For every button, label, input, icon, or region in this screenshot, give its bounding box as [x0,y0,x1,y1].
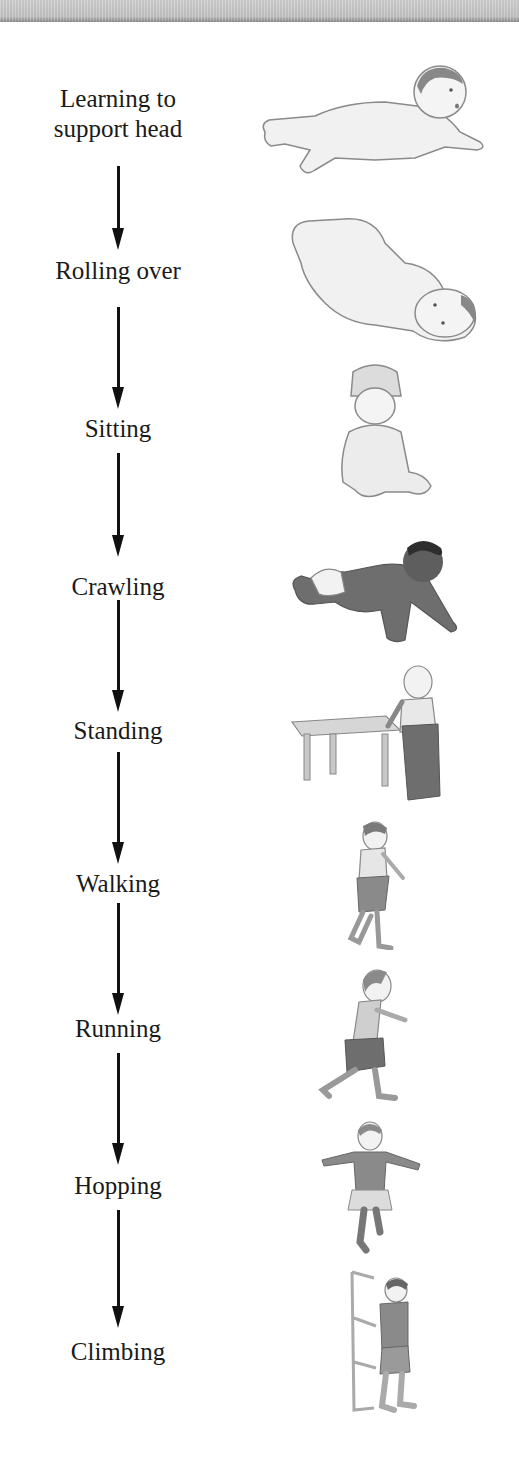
stage-label-hopping: Hopping [0,1171,236,1201]
stage-label-walking: Walking [0,869,236,899]
down-arrow-icon [112,307,125,409]
label-line: Learning to [0,84,236,114]
down-arrow-icon [112,1053,125,1165]
stage-label-sitting: Sitting [0,414,236,444]
stage-label-running: Running [0,1014,236,1044]
baby-sitting-figure [335,362,440,502]
child-hopping-figure [320,1120,425,1260]
toddler-standing-figure [290,660,450,810]
down-arrow-icon [112,453,125,557]
down-arrow-icon [112,903,125,1015]
stage-label-climbing: Climbing [0,1337,236,1367]
stage-label-support-head: Learning to support head [0,84,236,144]
down-arrow-icon [112,1210,125,1328]
baby-crawling-figure [285,540,465,650]
down-arrow-icon [112,166,125,250]
child-running-figure [315,966,425,1106]
stage-label-crawling: Crawling [0,572,236,602]
stage-label-rolling-over: Rolling over [0,256,236,286]
baby-rolling-figure [285,213,485,343]
toddler-walking-figure [345,820,415,950]
label-line: support head [0,114,236,144]
down-arrow-icon [112,752,125,864]
top-border-strip [0,0,519,22]
stage-label-standing: Standing [0,716,236,746]
baby-prone-figure [255,62,495,194]
down-arrow-icon [112,600,125,712]
child-climbing-ladder-figure [350,1270,420,1415]
